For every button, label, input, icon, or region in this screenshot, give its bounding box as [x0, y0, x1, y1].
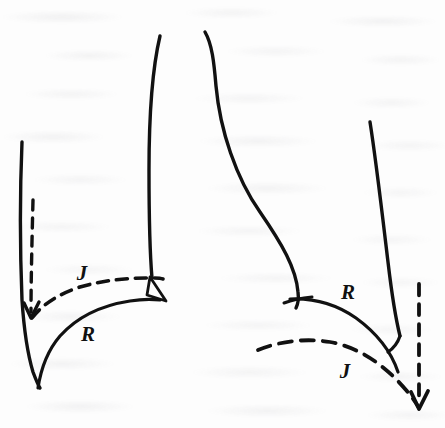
mediastinum-left-border: [149, 36, 160, 278]
label-left-solid-r: R: [80, 322, 95, 346]
figure-canvas: J R R J: [0, 0, 445, 428]
right-chest-wall: [370, 122, 400, 336]
left-displacement-arrow: [31, 200, 33, 312]
mediastinum-right-border: [205, 32, 298, 308]
label-right-dashed-j: J: [339, 359, 352, 383]
left-solid-diaphragm: [38, 299, 160, 388]
right-costophrenic-angle: [388, 336, 400, 352]
right-dashed-diaphragm: [258, 340, 419, 408]
chest-radiograph-line-drawing: J R R J: [0, 0, 445, 428]
label-left-dashed-j: J: [76, 261, 89, 285]
label-right-solid-r: R: [340, 280, 355, 304]
